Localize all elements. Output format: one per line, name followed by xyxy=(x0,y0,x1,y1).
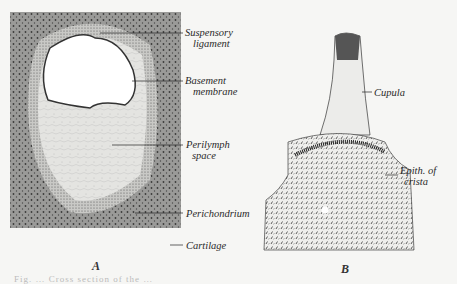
label-cartilage: Cartilage xyxy=(186,240,226,251)
label-perilymph-space: Perilymph space xyxy=(186,139,230,161)
panel-a-illustration xyxy=(10,12,183,245)
label-epith-of-crista: Epith. of crista xyxy=(400,165,436,187)
label-suspensory-ligament: Suspensory ligament xyxy=(185,27,233,49)
label-perichondrium: Perichondrium xyxy=(186,208,250,219)
panel-b-illustration xyxy=(264,33,414,250)
label-line: membrane xyxy=(185,86,237,97)
figure-caption: Fig. … Cross section of the … xyxy=(14,274,153,284)
panel-letter-b: B xyxy=(341,262,349,277)
label-line: space xyxy=(186,150,230,161)
label-basement-membrane: Basement membrane xyxy=(185,75,237,97)
label-line: Perilymph xyxy=(186,139,230,150)
label-line: ligament xyxy=(185,38,233,49)
label-line: Basement xyxy=(185,75,237,86)
panel-letter-a: A xyxy=(92,259,100,274)
label-line: Suspensory xyxy=(185,27,233,38)
label-line: crista xyxy=(400,176,436,187)
label-cupula: Cupula xyxy=(374,87,405,98)
label-line: Epith. of xyxy=(400,165,436,176)
